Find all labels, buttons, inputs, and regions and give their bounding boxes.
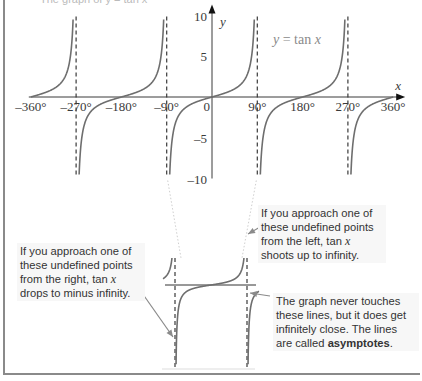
- inset-left-branch: [163, 258, 172, 279]
- inset-plot: [162, 181, 259, 370]
- asymptotes-term: asymptotes: [328, 337, 390, 349]
- inset-right-branch: [248, 291, 259, 364]
- zoom-connector: [168, 181, 181, 259]
- y-tick-label: 5: [201, 49, 208, 64]
- y-axis-label: y: [218, 14, 226, 29]
- y-tick-label: –10: [187, 172, 208, 187]
- arrow-from-right-head-icon: [167, 330, 173, 337]
- x-tick-label: 180°: [290, 99, 315, 114]
- function-label: y = tan x: [271, 32, 322, 47]
- callout-from-left: If you approach one of these undefined p…: [258, 205, 386, 263]
- callout-from-right: If you approach one of these undefined p…: [17, 243, 145, 301]
- x-axis-label: x: [394, 78, 401, 93]
- main-plot: xy–360°–270°–180°–90°090°180°270°360°105…: [14, 5, 405, 187]
- x-tick-label: –90°: [153, 99, 179, 114]
- x-tick-label: 360°: [381, 99, 406, 114]
- tan-curve-branch: [31, 19, 73, 97]
- x-tick-label: –360°: [14, 99, 46, 114]
- x-tick-label: 90°: [248, 99, 266, 114]
- x-tick-label: 270°: [336, 99, 361, 114]
- callout-asymptotes: The graph never touches these lines, but…: [273, 293, 419, 351]
- x-tick-label: 0: [204, 99, 211, 114]
- inset-tan-curve: [176, 258, 244, 364]
- y-axis-arrow-icon: [209, 5, 216, 14]
- y-tick-label: –5: [193, 131, 207, 146]
- x-tick-label: –270°: [59, 99, 91, 114]
- zoom-connector: [242, 181, 256, 259]
- y-tick-label: 10: [194, 9, 207, 24]
